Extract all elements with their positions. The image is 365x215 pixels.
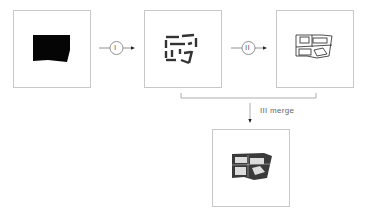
line-plan-icon (296, 35, 332, 58)
operation-2-label: II (245, 43, 250, 52)
arrow-down-icon (248, 119, 251, 123)
merged-plan-icon (232, 153, 272, 180)
diagram-canvas (0, 0, 365, 215)
operation-1-label: I (114, 43, 117, 52)
merge-bracket (181, 93, 316, 119)
solid-footprint-icon (33, 35, 70, 62)
operation-1-connector (99, 42, 135, 55)
dashed-outline-icon (166, 35, 196, 63)
merge-label: III merge (260, 106, 294, 115)
